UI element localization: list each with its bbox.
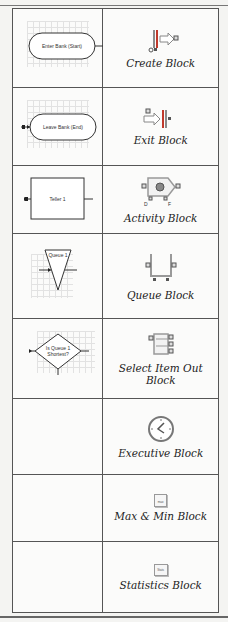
queue-block-icon xyxy=(141,252,181,286)
svg-text:D: D xyxy=(144,201,148,207)
diagram-cell: Leave Bank (End) xyxy=(13,88,103,166)
icon-cell: Queue Block xyxy=(103,234,219,319)
block-label: Exit Block xyxy=(103,134,218,146)
activity-block-icon: D F xyxy=(138,175,184,209)
icon-cell: Select Item Out Block xyxy=(103,319,219,399)
block-label: Queue Block xyxy=(103,289,218,301)
table-row: Queue 1 Queue Block xyxy=(13,234,219,319)
diagram-cell xyxy=(13,475,103,542)
bottom-rule xyxy=(0,616,228,618)
block-label: Max & Min Block xyxy=(103,510,218,522)
table-row: Teller 1 D F Activity Block xyxy=(13,166,219,234)
block-table: Enter Bank (Start) Create Block Le xyxy=(12,8,219,613)
table-row: Stats Statistics Block xyxy=(13,542,219,613)
decision-diamond-text: Is Queue 1 Shortest? xyxy=(41,345,75,357)
diagram-cell xyxy=(13,399,103,475)
icon-cell: Stats Statistics Block xyxy=(103,542,219,613)
diagram-cell: Enter Bank (Start) xyxy=(13,9,103,88)
start-terminal-text: Enter Bank (Start) xyxy=(29,43,95,49)
diagram-cell: Teller 1 xyxy=(13,166,103,234)
diagram-cell xyxy=(13,542,103,613)
process-box-text: Teller 1 xyxy=(31,196,84,202)
select-item-out-block-icon xyxy=(143,331,179,359)
queue-triangle-text: Queue 1 xyxy=(45,252,71,258)
top-rule xyxy=(0,5,228,6)
block-label: Create Block xyxy=(103,57,218,69)
icon-cell: Exit Block xyxy=(103,88,219,166)
icon-cell: D F Activity Block xyxy=(103,166,219,234)
executive-block-icon xyxy=(146,414,176,444)
statistics-block-icon: Stats xyxy=(154,564,168,576)
table-row: Enter Bank (Start) Create Block xyxy=(13,9,219,88)
icon-cell: Create Block xyxy=(103,9,219,88)
max-min-block-icon: max xyxy=(154,494,167,507)
table-row: Leave Bank (End) Exit Block xyxy=(13,88,219,166)
create-block-icon xyxy=(141,28,181,54)
table-row: max Max & Min Block xyxy=(13,475,219,542)
diagram-cell: Is Queue 1 Shortest? xyxy=(13,319,103,399)
table-row: Executive Block xyxy=(13,399,219,475)
block-label: Select Item Out Block xyxy=(103,362,218,386)
exit-block-icon xyxy=(141,107,181,131)
end-terminal-text: Leave Bank (End) xyxy=(30,124,96,130)
icon-cell: max Max & Min Block xyxy=(103,475,219,542)
block-label: Activity Block xyxy=(103,212,218,224)
queue-triangle-shape xyxy=(13,234,103,319)
block-label: Statistics Block xyxy=(103,579,218,591)
icon-cell: Executive Block xyxy=(103,399,219,475)
svg-text:F: F xyxy=(168,201,171,207)
block-label: Executive Block xyxy=(103,447,218,459)
table-row: Is Queue 1 Shortest? Select Item Out Blo… xyxy=(13,319,219,399)
diagram-cell: Queue 1 xyxy=(13,234,103,319)
decision-diamond-shape xyxy=(13,319,103,399)
